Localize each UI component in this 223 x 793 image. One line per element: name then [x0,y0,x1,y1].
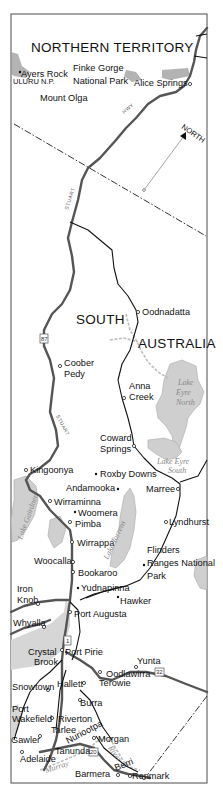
svg-text:20: 20 [90,749,97,755]
label-flinders-3: Park [147,571,166,581]
label-kingoonya: Kingoonya [30,465,74,475]
label-coober-1: Coober [64,358,94,368]
label-morgan: Morgan [98,734,129,744]
label-snowtown: Snowtown [12,682,54,692]
label-barmera: Barmera [75,769,111,779]
label-yunta: Yunta [137,656,161,666]
label-alice-springs: Alice Springs [134,78,188,88]
label-lake-eyre-north-1: Lake [177,378,194,387]
label-whyalla: Whyalla [13,618,47,628]
label-adelaide: Adelaide [20,754,56,764]
state-border-nt-sa [14,124,206,236]
label-lyndhurst: Lyndhurst [169,517,209,527]
label-andamooka: Andamooka [66,483,116,493]
label-roxby-downs: Roxby Downs [100,469,157,479]
label-coward-2: Springs [100,444,132,454]
label-burra: Burra [80,698,103,708]
label-port-augusta: Port Augusta [74,609,127,619]
label-lake-eyre-north-3: North [175,398,195,407]
map: NORTH HWY STUART STUART 87 1 32 20 [0,0,223,793]
label-hawker: Hawker [120,596,151,606]
region-australia: AUSTRALIA [138,336,216,351]
label-finke-gorge-2: National Park [73,76,129,86]
label-wirraminna: Wirraminna [54,497,102,507]
svg-text:32: 32 [156,669,163,675]
label-port-pirie: Port Pirie [65,647,103,657]
state-border-sa-nsw [148,696,207,774]
hwy-label: HWY [121,102,135,115]
label-flinders-1: Flinders [147,545,180,555]
label-uluru-np: ULURU N.P. [13,77,55,86]
label-woomera: Woomera [78,508,119,518]
label-gawler: Gawler [11,735,40,745]
label-crystal-2: Brook [34,657,58,667]
north-arrow: NORTH [143,122,207,191]
label-woocalla: Woocalla [34,556,73,566]
region-northern-territory: NORTHERN TERRITORY [31,40,194,55]
label-marree: Marree [146,484,175,494]
label-terowie: Terowie [99,678,131,688]
label-mount-olga: Mount Olga [40,93,88,103]
label-anna-2: Creek [129,392,154,402]
label-iron-1: Iron [17,584,33,594]
label-coward-1: Coward [100,433,132,443]
label-riverton: Riverton [58,714,92,724]
svg-text:87: 87 [41,336,48,342]
route-shield-1: 1 [64,636,71,645]
region-south: SOUTH [76,312,125,327]
label-pimba: Pimba [75,519,102,529]
route-shield-20: 20 [89,748,98,756]
route-shield-32: 32 [155,668,164,676]
label-finke-gorge-1: Finke Gorge [73,63,124,73]
route-shield-87: 87 [40,334,48,343]
label-anna-1: Anna [129,381,151,391]
label-yudnapinna: Yudnapinna [81,583,130,593]
stuart-label-1: STUART [63,187,76,211]
label-tanunda: Tanunda [55,746,91,756]
label-oodnadatta: Oodnadatta [142,307,191,317]
label-hallett: Hallett [57,679,83,689]
label-port-wakefield-2: Wakefield [12,714,52,724]
label-flinders-2: Ranges National [147,558,215,568]
label-bookaroo: Bookaroo [78,568,117,578]
label-coober-2: Pedy [64,369,85,379]
label-lake-eyre-south-2: South [168,466,186,475]
label-crystal-1: Crystal [28,647,57,657]
small-lake [48,516,66,548]
label-port-wakefield-1: Port [12,704,29,714]
label-renmark: Renmark [132,771,170,781]
label-lake-eyre-south-1: Lake Eyre [156,457,190,466]
label-iron-2: Knob [17,595,38,605]
label-lake-eyre-north-2: Eyre [175,388,191,397]
